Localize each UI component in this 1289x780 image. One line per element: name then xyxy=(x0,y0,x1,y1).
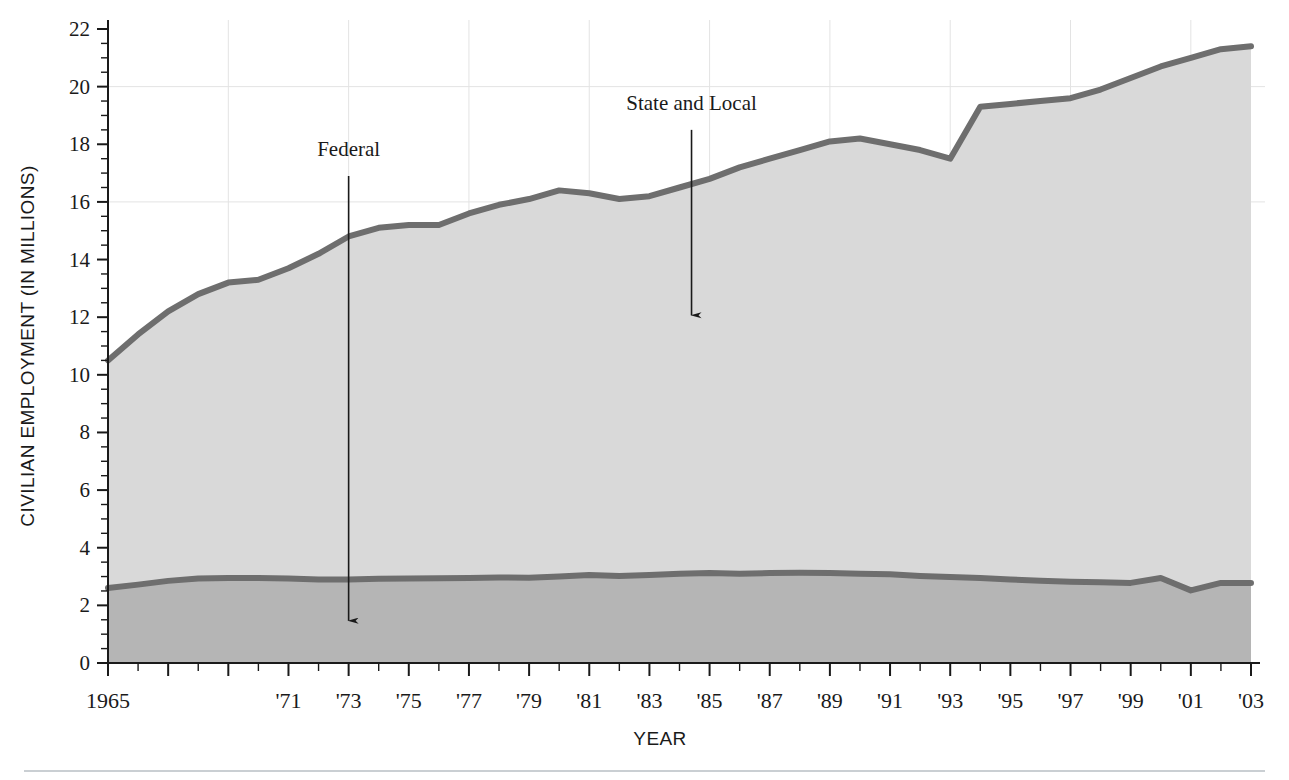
y-tick-label: 20 xyxy=(69,75,90,99)
y-tick-label: 12 xyxy=(69,305,90,329)
y-tick-label: 0 xyxy=(80,651,91,675)
x-tick-label: '87 xyxy=(757,688,783,713)
x-tick-label: '93 xyxy=(937,688,963,713)
x-tick-label: '81 xyxy=(576,688,602,713)
y-tick-label: 6 xyxy=(80,478,91,502)
area-federal xyxy=(108,573,1251,663)
x-tick-label: '91 xyxy=(877,688,903,713)
x-axis-title: YEAR xyxy=(633,728,686,749)
x-tick-label: '89 xyxy=(817,688,843,713)
annotation-label: Federal xyxy=(317,137,380,161)
x-tick-label: '97 xyxy=(1058,688,1084,713)
employment-area-chart: 0246810121416182022 1965'71'73'75'77'79'… xyxy=(0,0,1289,780)
y-tick-label: 2 xyxy=(80,593,91,617)
x-tick-label: '01 xyxy=(1178,688,1204,713)
y-tick-label: 4 xyxy=(80,536,91,560)
x-tick-label: 1965 xyxy=(86,688,130,713)
y-axis-title: CIVILIAN EMPLOYMENT (IN MILLIONS) xyxy=(17,165,38,526)
chart-figure: 0246810121416182022 1965'71'73'75'77'79'… xyxy=(0,0,1289,780)
y-tick-label: 16 xyxy=(69,190,90,214)
x-tick-label: '99 xyxy=(1118,688,1144,713)
y-tick-label: 8 xyxy=(80,420,91,444)
y-tick-label: 18 xyxy=(69,132,90,156)
x-tick-label: '85 xyxy=(697,688,723,713)
y-tick-label: 22 xyxy=(69,17,90,41)
x-tick-label: '75 xyxy=(396,688,422,713)
x-tick-label: '03 xyxy=(1238,688,1264,713)
x-tick-label: '73 xyxy=(336,688,362,713)
x-tick-label: '71 xyxy=(275,688,301,713)
x-tick-label: '95 xyxy=(997,688,1023,713)
y-tick-label: 10 xyxy=(69,363,90,387)
x-tick-label: '79 xyxy=(516,688,542,713)
x-tick-label: '77 xyxy=(456,688,482,713)
x-tick-label: '83 xyxy=(636,688,662,713)
y-tick-label: 14 xyxy=(69,248,91,272)
annotation-label: State and Local xyxy=(626,91,757,115)
